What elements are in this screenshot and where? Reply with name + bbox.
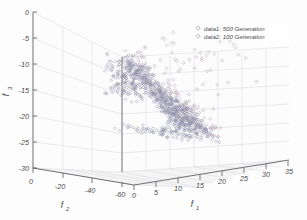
z-tick-6: -30 <box>19 164 29 173</box>
scatter-plot-canvas: 0 -5 -10 -15 -20 -25 -30 f 3 0 -20 -40 -… <box>0 0 307 220</box>
x-axis-label-sub: 1 <box>196 205 199 211</box>
x-tick-3: 15 <box>196 181 205 190</box>
z-tick-3: -15 <box>19 86 30 95</box>
z-tick-5: -25 <box>19 138 30 147</box>
data-point <box>218 40 221 43</box>
back-wall-left <box>33 12 122 172</box>
figure-3d-scatter: 0 -5 -10 -15 -20 -25 -30 f 3 0 -20 -40 -… <box>0 0 307 220</box>
z-axis-label: f 3 <box>1 86 13 96</box>
x-tick-6: 30 <box>262 170 270 179</box>
back-wall-right <box>122 47 289 172</box>
data-point <box>234 46 237 49</box>
legend-entry-1[interactable]: data2: 100 Generation <box>196 33 265 40</box>
z-tick-4: -20 <box>19 112 29 121</box>
legend-label-data2: data2: 100 Generation <box>204 33 265 40</box>
x-tick-2: 10 <box>174 184 182 193</box>
data-point <box>172 31 175 34</box>
legend-entry-0[interactable]: data1: 500 Generation <box>196 25 265 32</box>
y-tick-0: 0 <box>29 177 33 186</box>
y-tick-1: -20 <box>55 182 65 191</box>
z-tick-1: -5 <box>23 34 30 43</box>
y-tick-2: -40 <box>85 186 95 195</box>
z-axis-label-base: f <box>1 92 11 96</box>
data-point <box>228 40 231 43</box>
legend-label-data1: data1: 500 Generation <box>204 25 265 32</box>
x-axis-label: f 1 <box>191 199 199 211</box>
x-tick-0: 0 <box>132 191 136 200</box>
x-axis-label-base: f <box>191 199 195 209</box>
data-point <box>193 48 196 51</box>
x-tick-7: 35 <box>285 167 294 176</box>
y-axis-label-sub: 2 <box>65 206 70 212</box>
z-axis-label-sub: 3 <box>7 86 13 90</box>
x-tick-4: 20 <box>217 177 226 186</box>
data-point <box>232 43 235 46</box>
y-tick-3: -60 <box>115 190 125 199</box>
x-tick-5: 25 <box>239 174 249 183</box>
y-axis-label-base: f <box>61 200 65 210</box>
z-tick-2: -10 <box>19 60 29 69</box>
z-tick-0: 0 <box>25 8 29 17</box>
x-tick-1: 5 <box>154 188 159 197</box>
legend: data1: 500 Generation data2: 100 Generat… <box>190 22 290 40</box>
y-axis-label: f 2 <box>61 200 70 212</box>
data-point <box>170 51 173 54</box>
data-point <box>124 49 127 52</box>
data-point <box>165 44 168 47</box>
